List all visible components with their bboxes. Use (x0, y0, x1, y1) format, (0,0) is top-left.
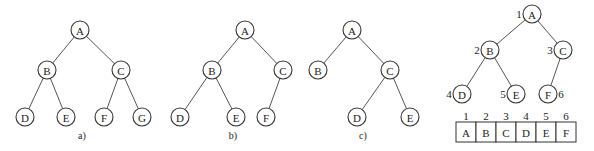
node-index-number: 4 (446, 88, 452, 100)
tree-a-node-G: G (133, 108, 151, 126)
array-cell-4: D4 (516, 110, 536, 142)
edge-b-A-B (218, 37, 240, 63)
node-label: D (176, 112, 184, 124)
array-cell-2: B2 (476, 110, 496, 142)
node-label: B (43, 65, 50, 77)
tree-a-node-F: F (95, 108, 113, 126)
tree-a-node-D: D (16, 108, 34, 126)
tree-b-node-E: E (227, 108, 245, 126)
node-label: C (386, 65, 393, 77)
array-index: 3 (503, 110, 509, 122)
node-label: C (559, 45, 566, 57)
node-index-number: 6 (558, 88, 564, 100)
node-label: G (138, 112, 146, 124)
edge-a-B-E (50, 78, 62, 108)
edge-b-C-F (269, 78, 280, 108)
edge-b-A-C (251, 37, 277, 64)
edge-d-A-B (497, 20, 525, 44)
array-index: 1 (463, 110, 469, 122)
edge-b-B-E (216, 78, 232, 109)
tree-b-node-B: B (203, 61, 221, 79)
tree-c-node-E: E (401, 108, 419, 126)
node-label: B (314, 65, 321, 77)
array-index: 2 (483, 110, 489, 122)
array-cell-value: F (563, 127, 569, 139)
edge-a-A-B (53, 37, 75, 63)
array-cell-value: C (502, 127, 509, 139)
node-label: E (233, 112, 240, 124)
tree-b-node-F: F (257, 108, 275, 126)
tree-d-node-E: E5 (500, 85, 525, 103)
tree-c-caption: c) (359, 130, 367, 142)
tree-d-node-F: F6 (539, 85, 564, 103)
edge-a-A-C (86, 36, 114, 63)
array-storage: A1B2C3D4E5F6 (456, 110, 576, 142)
node-label: D (458, 89, 466, 101)
tree-c-node-A: A (343, 21, 361, 39)
binary-tree-diagram: ABCDEFGABCDEFABCDEA1B2C3D4E5F6 a)b)c) A1… (0, 0, 594, 151)
edge-c-A-B (324, 37, 346, 63)
tree-c-node-B: B (309, 61, 327, 79)
tree-d-node-C: C3 (547, 41, 572, 59)
tree-a-node-B: B (38, 61, 56, 79)
tree-d-node-A: A1 (516, 5, 541, 23)
tree-a-node-E: E (57, 108, 75, 126)
array-cell-1: A1 (456, 110, 476, 142)
node-label: D (21, 112, 29, 124)
tree-b-caption: b) (229, 130, 237, 142)
node-label: C (279, 65, 286, 77)
array-index: 6 (563, 110, 569, 122)
edge-d-C-F (551, 59, 560, 86)
array-cell-value: B (482, 127, 489, 139)
node-label: A (528, 9, 536, 21)
array-cell-value: E (543, 127, 550, 139)
array-index: 5 (543, 110, 549, 122)
edge-a-C-F (107, 78, 118, 108)
node-label: E (407, 112, 414, 124)
tree-c-node-D: D (348, 108, 366, 126)
node-index-number: 2 (474, 44, 480, 56)
node-index-number: 5 (500, 88, 506, 100)
edges-layer (29, 20, 560, 110)
edge-a-C-G (125, 78, 139, 109)
edge-d-B-E (495, 58, 512, 87)
edge-a-B-D (29, 78, 43, 109)
array-index: 4 (523, 110, 529, 122)
node-index-number: 3 (547, 44, 553, 56)
tree-b-node-C: C (274, 61, 292, 79)
node-label: A (241, 25, 249, 37)
node-label: E (63, 112, 70, 124)
tree-c-node-C: C (381, 61, 399, 79)
tree-a-node-C: C (112, 61, 130, 79)
edge-b-B-D (185, 77, 207, 109)
labels-layer: a)b)c) (78, 130, 367, 142)
tree-b-node-D: D (171, 108, 189, 126)
node-label: A (348, 25, 356, 37)
nodes-layer: ABCDEFGABCDEFABCDEA1B2C3D4E5F6 (16, 5, 572, 126)
edge-c-C-E (394, 78, 407, 108)
node-label: C (117, 65, 124, 77)
node-label: F (101, 112, 107, 124)
node-label: A (76, 25, 84, 37)
edge-d-A-C (538, 21, 557, 43)
edge-c-A-C (358, 37, 384, 64)
node-label: E (513, 89, 520, 101)
node-label: B (208, 65, 215, 77)
edge-c-C-D (362, 77, 385, 109)
array-cell-value: D (522, 127, 530, 139)
tree-a-caption: a) (78, 130, 86, 142)
array-cell-6: F6 (556, 110, 576, 142)
edge-d-B-D (467, 58, 485, 87)
node-index-number: 1 (516, 8, 522, 20)
array-cell-value: A (462, 127, 470, 139)
tree-b-node-A: A (236, 21, 254, 39)
tree-a-node-A: A (71, 21, 89, 39)
node-label: D (353, 112, 361, 124)
tree-d-node-D: D4 (446, 85, 471, 103)
array-cell-5: E5 (536, 110, 556, 142)
node-label: F (545, 89, 551, 101)
array-cell-3: C3 (496, 110, 516, 142)
node-label: B (486, 45, 493, 57)
node-label: F (263, 112, 269, 124)
tree-d-node-B: B2 (474, 41, 499, 59)
